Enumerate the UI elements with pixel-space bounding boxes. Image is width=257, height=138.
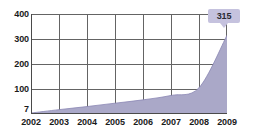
area-chart: 4003002001007 20022003200420052006200720… bbox=[0, 0, 257, 138]
y-tick-label: 100 bbox=[1, 85, 29, 94]
x-axis-line bbox=[31, 113, 227, 114]
value-callout-pointer bbox=[220, 23, 228, 28]
plot-area bbox=[31, 14, 227, 114]
area-series bbox=[31, 14, 227, 114]
y-tick-label: 300 bbox=[1, 35, 29, 44]
y-tick-label: 200 bbox=[1, 60, 29, 69]
y-axis-line bbox=[31, 14, 32, 114]
x-tick-label: 2009 bbox=[210, 117, 244, 128]
value-callout-badge: 315 bbox=[208, 9, 240, 23]
x-axis-labels: 20022003200420052006200720082009 bbox=[31, 117, 227, 131]
y-tick-label: 400 bbox=[1, 10, 29, 19]
value-callout-label: 315 bbox=[217, 11, 232, 21]
y-tick-label: 7 bbox=[1, 105, 29, 114]
